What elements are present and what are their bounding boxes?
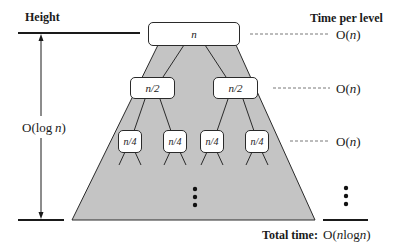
tree-node-level2-3: n/4 — [200, 130, 224, 153]
tree-node-level2-2: n/4 — [163, 130, 187, 153]
tree-continuation-ellipsis-icon — [193, 187, 197, 207]
tree-shaded-region — [72, 45, 315, 220]
total-time-value: O(nlogn) — [323, 228, 371, 241]
tree-node-level1-left: n/2 — [130, 77, 175, 99]
tree-node-root: n — [148, 22, 240, 46]
total-time-label: Total time: — [262, 229, 318, 241]
level-1-time-label: O(n) — [336, 82, 361, 95]
tree-node-level2-4: n/4 — [245, 130, 269, 153]
tree-node-level2-1: n/4 — [118, 130, 142, 153]
level-2-time-label: O(n) — [336, 135, 361, 148]
level-0-time-label: O(n) — [336, 28, 361, 41]
time-continuation-ellipsis-icon — [344, 186, 348, 206]
time-per-level-heading: Time per level — [310, 12, 383, 24]
height-heading: Height — [25, 11, 60, 23]
height-value-label: O(log n) — [22, 121, 66, 134]
tree-node-level1-right: n/2 — [213, 77, 258, 99]
